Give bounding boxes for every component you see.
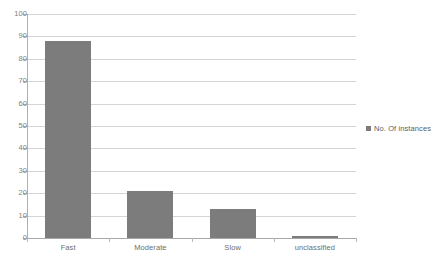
x-tick-mark (356, 238, 357, 242)
x-tick-mark (109, 238, 110, 242)
y-axis-line (27, 14, 28, 239)
bar-chart: 100 90 80 70 60 50 40 30 20 10 0 Fast Mo… (0, 0, 441, 259)
bars-layer (27, 14, 356, 238)
y-tick-label: 90 (5, 32, 27, 40)
bar-slow[interactable] (210, 209, 256, 238)
y-tick-label: 0 (5, 234, 27, 242)
x-category-label-fast: Fast (27, 243, 109, 252)
x-tick-mark (27, 238, 28, 242)
legend: No. Of instances (366, 124, 431, 133)
y-axis: 100 90 80 70 60 50 40 30 20 10 0 (0, 0, 27, 259)
x-category-label-slow: Slow (192, 243, 274, 252)
x-category-label-moderate: Moderate (109, 243, 191, 252)
y-tick-label: 60 (5, 100, 27, 108)
bar-slot-2 (192, 14, 274, 238)
x-tick-mark (192, 238, 193, 242)
bar-slot-1 (109, 14, 191, 238)
legend-label: No. Of instances (374, 124, 431, 133)
bar-slot-3 (274, 14, 356, 238)
y-tick-label: 20 (5, 189, 27, 197)
y-tick-label: 30 (5, 167, 27, 175)
x-category-label-unclassified: unclassified (274, 243, 356, 252)
y-tick-label: 80 (5, 55, 27, 63)
bar-slot-0 (27, 14, 109, 238)
bar-fast[interactable] (45, 41, 91, 238)
y-tick-label: 50 (5, 122, 27, 130)
bar-moderate[interactable] (127, 191, 173, 238)
x-tick-mark (274, 238, 275, 242)
y-tick-label: 10 (5, 212, 27, 220)
y-tick-label: 100 (5, 10, 27, 18)
y-tick-label: 70 (5, 77, 27, 85)
legend-swatch-icon (366, 126, 371, 131)
y-tick-label: 40 (5, 144, 27, 152)
